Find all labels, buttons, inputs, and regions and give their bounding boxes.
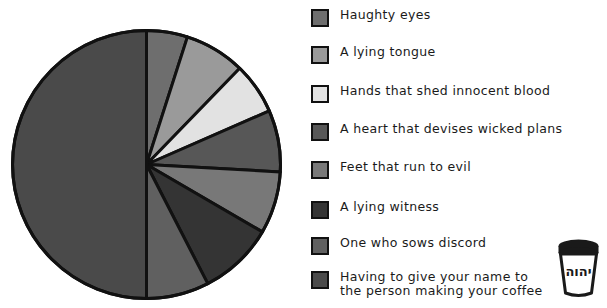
legend-item-hands-that-shed-innocent-blood[interactable]: Hands that shed innocent blood xyxy=(311,84,550,103)
pie-slice-7[interactable] xyxy=(13,31,147,299)
legend-swatch-icon-1 xyxy=(311,46,329,64)
legend-swatch-icon-5 xyxy=(311,201,329,219)
legend-label-0: Haughty eyes xyxy=(340,8,431,22)
coffee-cup-illustration: יהוה xyxy=(554,236,603,298)
legend-item-feet-that-run-to-evil[interactable]: Feet that run to evil xyxy=(311,160,471,179)
coffee-cup-icon: יהוה xyxy=(554,236,603,298)
legend-swatch-icon-3 xyxy=(311,123,329,141)
legend-item-having-to-give-your-name[interactable]: Having to give your name to the person m… xyxy=(311,270,543,298)
legend-item-a-lying-witness[interactable]: A lying witness xyxy=(311,200,439,219)
legend-item-one-who-sows-discord[interactable]: One who sows discord xyxy=(311,236,486,255)
legend-swatch-icon-0 xyxy=(311,9,329,27)
legend-label-6: One who sows discord xyxy=(340,236,486,250)
legend-label-2: Hands that shed innocent blood xyxy=(340,84,550,98)
legend-item-haughty-eyes[interactable]: Haughty eyes xyxy=(311,8,431,27)
chart-page: Haughty eyes A lying tongue Hands that s… xyxy=(0,0,607,308)
pie-chart xyxy=(0,0,300,308)
legend-item-a-heart-that-devises-wicked-plans[interactable]: A heart that devises wicked plans xyxy=(311,122,562,141)
legend-swatch-icon-7 xyxy=(311,271,329,289)
legend-swatch-icon-4 xyxy=(311,161,329,179)
pie-chart-svg xyxy=(0,0,300,308)
legend-item-a-lying-tongue[interactable]: A lying tongue xyxy=(311,45,436,64)
cup-name-text: יהוה xyxy=(565,264,591,279)
legend-label-4: Feet that run to evil xyxy=(340,160,471,174)
legend-swatch-icon-2 xyxy=(311,85,329,103)
legend-label-1: A lying tongue xyxy=(340,45,436,59)
legend-label-5: A lying witness xyxy=(340,200,439,214)
legend-label-3: A heart that devises wicked plans xyxy=(340,122,562,136)
legend-swatch-icon-6 xyxy=(311,237,329,255)
legend-label-7: Having to give your name to the person m… xyxy=(340,270,543,298)
